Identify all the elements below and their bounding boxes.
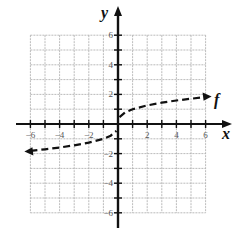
svg-text:−4: −4 xyxy=(55,130,65,140)
svg-text:4: 4 xyxy=(109,60,114,70)
svg-text:4: 4 xyxy=(174,130,179,140)
curve-label-f: f xyxy=(214,91,221,109)
svg-text:2: 2 xyxy=(145,130,150,140)
svg-text:−4: −4 xyxy=(103,178,113,188)
x-axis-label: x xyxy=(221,125,230,142)
svg-text:−2: −2 xyxy=(84,130,94,140)
svg-text:6: 6 xyxy=(203,130,208,140)
svg-text:−6: −6 xyxy=(26,130,36,140)
svg-text:−2: −2 xyxy=(103,149,113,159)
svg-text:2: 2 xyxy=(109,89,114,99)
svg-text:6: 6 xyxy=(109,30,114,40)
axes xyxy=(16,6,232,228)
y-axis-label: y xyxy=(99,4,109,22)
svg-text:−6: −6 xyxy=(103,208,113,218)
function-graph: −6−4−2246−6−4−2246 y x f xyxy=(0,0,244,238)
